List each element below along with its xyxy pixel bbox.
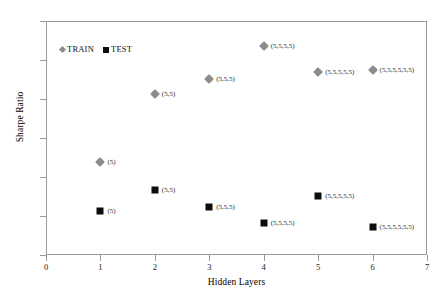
x-axis-tick-label: 1 [90,263,110,272]
x-axis-tick [427,255,428,261]
data-point-test [260,219,267,226]
x-axis-tick [318,255,319,261]
x-axis-tick-label: 3 [199,263,219,272]
square-marker-icon [103,47,109,53]
x-axis-tick [209,255,210,261]
data-point-label: (5,5) [162,90,175,97]
x-axis-tick [373,255,374,261]
x-axis-tick-label: 0 [36,263,56,272]
y-axis-tick [40,60,46,61]
data-point-label: (5,5,5,5,5,5) [380,223,414,230]
x-axis-tick [46,255,47,261]
data-point-label: (5,5,5) [216,204,235,211]
data-point-test [369,223,376,230]
x-axis-tick-label: 5 [308,263,328,272]
y-axis-tick [40,216,46,217]
y-axis-title: Sharpe Ratio [15,67,25,167]
data-point-test [97,207,104,214]
data-point-test [206,204,213,211]
x-axis-tick-label: 6 [363,263,383,272]
legend-item-train: TRAIN [60,45,94,54]
legend-label-train: TRAIN [67,45,94,54]
x-axis-title: Hidden Layers [46,277,427,287]
y-axis-tick [40,138,46,139]
x-axis-tick [100,255,101,261]
legend-label-test: TEST [111,45,132,54]
data-point-label: (5,5,5,5) [271,43,295,50]
plot-area [46,21,427,255]
data-point-label: (5) [107,159,115,166]
y-axis-tick [40,99,46,100]
sharpe-ratio-scatter-chart: 543210-1 01234567 Sharpe Ratio Hidden La… [0,0,448,302]
y-axis-tick [40,21,46,22]
chart-legend: TRAIN TEST [60,45,132,54]
data-point-test [315,192,322,199]
x-axis-tick-label: 2 [145,263,165,272]
data-point-label: (5,5,5,5) [271,219,295,226]
data-point-label: (5) [107,207,115,214]
x-axis-tick-label: 7 [417,263,437,272]
data-point-label: (5,5) [162,186,175,193]
x-axis-tick [155,255,156,261]
y-axis-tick [40,177,46,178]
data-point-label: (5,5,5) [216,75,235,82]
data-point-label: (5,5,5,5,5) [325,192,354,199]
x-axis-tick-label: 4 [254,263,274,272]
data-point-label: (5,5,5,5,5,5) [380,66,414,73]
x-axis-tick [264,255,265,261]
diamond-marker-icon [59,46,66,53]
data-point-label: (5,5,5,5,5) [325,69,354,76]
legend-item-test: TEST [103,45,132,54]
data-point-test [151,186,158,193]
